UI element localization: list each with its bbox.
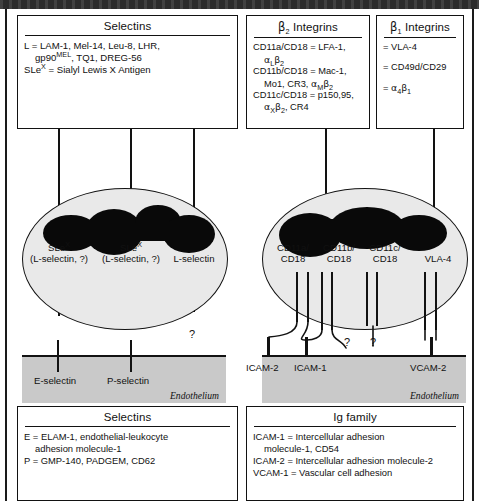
beta1-title-pre: β xyxy=(390,20,397,34)
ligand-post-icam2 xyxy=(267,337,270,357)
cd11a-top: CD11a/ xyxy=(277,242,309,253)
beta2-l3: CD11b/CD18 = Mac-1, xyxy=(253,66,347,76)
receptor-stalk-cd18-c xyxy=(376,272,378,326)
receptor-stalk-cd18-b xyxy=(331,272,333,330)
title-divider xyxy=(384,37,456,38)
ligand-label-icam1: ICAM-1 xyxy=(294,362,327,373)
beta2-l5: CD11c/CD18 = p150,95, xyxy=(253,90,354,100)
vla4-label: VLA-4 xyxy=(425,253,452,264)
binding-curve-cd11a-icam2 xyxy=(269,322,297,337)
slex1-pre: SLe xyxy=(48,242,65,253)
receptor-label-cd11c-cd18: CD11c/ CD18 xyxy=(354,242,416,264)
legend-body-beta1: = VLA-4 = CD49d/CD29 = α4β1 xyxy=(377,42,463,107)
ig-l2: molecule-1, CD54 xyxy=(264,443,339,454)
beta2-l6-post: , CR4 xyxy=(285,102,309,112)
ligand-post-vcam2 xyxy=(430,337,433,357)
selectins-top-line3-post: = Sialyl Lewis X Antigen xyxy=(46,64,151,75)
receptor-stalk-cd11b xyxy=(321,272,323,330)
endothelium-right-label: Endothelium xyxy=(410,390,459,401)
receptor-stalk-cd11a xyxy=(296,272,298,322)
title-divider xyxy=(254,426,456,427)
legend-box-ig-family: Ig family ICAM-1 = Intercellular adhesio… xyxy=(246,406,464,501)
legend-title-selectins-bottom: Selectins xyxy=(18,407,237,426)
selectins-top-line2-sup: MEL xyxy=(56,50,71,59)
beta1-l1: = VLA-4 xyxy=(383,42,417,52)
slex1-sup: X xyxy=(65,240,70,249)
cd11c-bottom: CD18 xyxy=(373,253,398,264)
beta2-title-pre: β xyxy=(278,20,285,34)
slex2-sup: X xyxy=(137,240,142,249)
legend-body-selectins-bottom: E = ELAM-1, endothelial-leukocyte adhesi… xyxy=(18,431,237,471)
receptor-stalk-cd11c xyxy=(366,272,368,326)
selectins-bot-l1: E = ELAM-1, endothelial-leukocyte xyxy=(24,431,168,442)
legend-box-selectins-top: Selectins L = LAM-1, Mel-14, Leu-8, LHR,… xyxy=(17,15,238,129)
receptor-stalk-vla4-b xyxy=(435,272,437,330)
question-mark-l-selectin: ? xyxy=(189,328,195,340)
cd11b-top: CD11b/ xyxy=(323,242,355,253)
receptor-stalk-cd18-a xyxy=(307,272,309,322)
figure-border-right xyxy=(472,9,474,501)
ligand-stalk-p-selectin xyxy=(130,340,132,372)
ligand-label-e-selectin: E-selectin xyxy=(34,375,76,386)
ligand-post-icam1 xyxy=(305,337,308,357)
selectins-top-line2-post: , TQ1, DREG-56 xyxy=(71,52,142,63)
figure-page: Selectins L = LAM-1, Mel-14, Leu-8, LHR,… xyxy=(0,0,479,501)
receptor-label-vla4: VLA-4 xyxy=(410,253,466,264)
ligand-label-p-selectin: P-selectin xyxy=(107,375,149,386)
nucleus-lobe xyxy=(381,223,421,239)
beta1-title-post: Integrins xyxy=(402,21,450,33)
legend-box-selectins-bottom: Selectins E = ELAM-1, endothelial-leukoc… xyxy=(17,406,238,501)
title-divider xyxy=(25,426,230,427)
legend-title-ig-family: Ig family xyxy=(247,407,463,426)
ligand-stalk-e-selectin xyxy=(57,340,59,372)
cd11a-bottom: CD18 xyxy=(281,253,306,264)
legend-body-ig-family: ICAM-1 = Intercellular adhesion molecule… xyxy=(247,431,463,483)
question-mark-unknown-ligand: ? xyxy=(370,336,376,348)
endothelium-left-label: Endothelium xyxy=(170,390,219,401)
ig-l4: VCAM-1 = Vascular cell adhesion xyxy=(253,467,392,478)
receptor-label-l-selectin: L-selectin xyxy=(152,253,236,264)
legend-body-beta2: CD11a/CD18 = LFA-1, αLβ2 CD11b/CD18 = Ma… xyxy=(247,42,369,117)
ig-l1: ICAM-1 = Intercellular adhesion xyxy=(253,431,385,442)
scan-edge-band xyxy=(0,0,479,9)
legend-box-beta1-integrins: β1 Integrins = VLA-4 = CD49d/CD29 = α4β1 xyxy=(376,15,464,129)
ig-l3: ICAM-2 = Intercellular adhesion molecule… xyxy=(253,455,433,466)
binding-curve-cd11b-icam1 xyxy=(307,330,322,340)
nucleus-lobe xyxy=(77,223,177,241)
beta2-title-post: Integrins xyxy=(290,21,338,33)
legend-title-selectins-top: Selectins xyxy=(18,16,237,35)
selectins-bot-l2: adhesion molecule-1 xyxy=(35,443,122,454)
receptor-stalk-vla4-a xyxy=(424,272,426,330)
ligand-label-vcam2: VCAM-2 xyxy=(410,362,446,373)
legend-title-beta1: β1 Integrins xyxy=(377,16,463,37)
beta1-l3-beta-sub: 1 xyxy=(407,87,411,96)
title-divider xyxy=(254,37,362,38)
selectins-top-line3-pre: SLe xyxy=(24,64,41,75)
legend-body-selectins-top: L = LAM-1, Mel-14, Leu-8, LHR, gp90MEL, … xyxy=(18,40,237,79)
selectins-bot-l3: P = GMP-140, PADGEM, CD62 xyxy=(24,455,155,466)
slex2-pre: SLe xyxy=(120,242,137,253)
ligand-label-icam2: ICAM-2 xyxy=(246,362,279,373)
cd11c-top: CD11c/ xyxy=(369,242,400,253)
beta1-l2: = CD49d/CD29 xyxy=(383,62,446,72)
cd11b-bottom: CD18 xyxy=(327,253,352,264)
beta2-l4-pre: Mo1, CR3, xyxy=(264,79,311,89)
question-mark-cd11c-binding: ? xyxy=(344,336,350,348)
title-divider xyxy=(25,35,230,36)
selectins-top-line1: L = LAM-1, Mel-14, Leu-8, LHR, xyxy=(24,40,160,51)
beta2-l1: CD11a/CD18 = LFA-1, xyxy=(253,42,346,52)
beta1-l3-pre: = xyxy=(383,83,391,93)
legend-box-beta2-integrins: β2 Integrins CD11a/CD18 = LFA-1, αLβ2 CD… xyxy=(246,15,370,129)
lselectin-label: L-selectin xyxy=(173,253,214,264)
legend-title-beta2: β2 Integrins xyxy=(247,16,369,37)
